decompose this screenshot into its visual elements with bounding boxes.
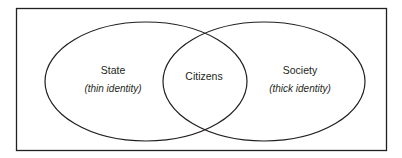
citizens-label: Citizens	[185, 70, 222, 82]
venn-diagram: State (thin identity) Citizens Society (…	[0, 0, 402, 158]
state-sublabel: (thin identity)	[84, 83, 141, 94]
society-sublabel: (thick identity)	[269, 83, 331, 94]
state-label: State	[101, 64, 126, 76]
society-label: Society	[283, 64, 318, 76]
